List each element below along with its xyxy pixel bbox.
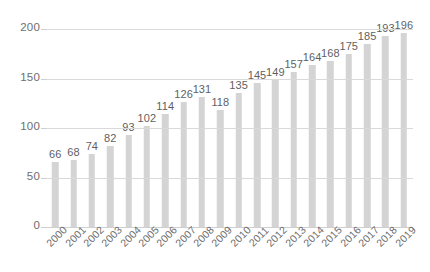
bar[interactable] — [382, 36, 389, 227]
bar[interactable] — [199, 97, 206, 227]
bar-group[interactable]: 66 — [46, 10, 64, 228]
bar-chart: 050100150200 666874829310211412613111813… — [0, 0, 430, 272]
bar[interactable] — [89, 154, 96, 227]
bar-group[interactable]: 193 — [376, 10, 394, 228]
bar-group[interactable]: 68 — [64, 10, 82, 228]
gridline — [46, 79, 413, 80]
bar-value-label: 131 — [193, 83, 212, 95]
bar-value-label: 193 — [376, 22, 395, 34]
bar-group[interactable]: 175 — [340, 10, 358, 228]
bar[interactable] — [346, 54, 353, 227]
bar-group[interactable]: 149 — [266, 10, 284, 228]
bar-group[interactable]: 196 — [395, 10, 413, 228]
bar-group[interactable]: 118 — [211, 10, 229, 228]
bar-group[interactable]: 114 — [156, 10, 174, 228]
y-axis-tick-label: 200 — [0, 21, 40, 33]
bar[interactable] — [180, 102, 187, 227]
x-axis: 2000200120022003200420052006200720082009… — [46, 230, 413, 272]
bar-value-label: 157 — [284, 58, 303, 70]
bar[interactable] — [107, 146, 114, 227]
bar[interactable] — [327, 61, 334, 227]
gridline — [46, 178, 413, 179]
bar-group[interactable]: 126 — [174, 10, 192, 228]
bar-value-label: 102 — [138, 112, 157, 124]
bar-group[interactable]: 135 — [230, 10, 248, 228]
bar[interactable] — [364, 44, 371, 227]
bar-value-label: 185 — [358, 30, 377, 42]
y-axis-tick-label: 100 — [0, 120, 40, 132]
bars-layer: 6668748293102114126131118135145149157164… — [46, 10, 413, 228]
bar-group[interactable]: 131 — [193, 10, 211, 228]
bar-group[interactable]: 185 — [358, 10, 376, 228]
bar-group[interactable]: 82 — [101, 10, 119, 228]
gridline — [46, 128, 413, 129]
bar[interactable] — [235, 93, 242, 227]
bar-group[interactable]: 168 — [321, 10, 339, 228]
bar[interactable] — [52, 162, 59, 227]
bar-group[interactable]: 102 — [138, 10, 156, 228]
bar-value-label: 118 — [211, 96, 229, 108]
bar[interactable] — [162, 114, 169, 227]
bar-value-label: 74 — [86, 140, 98, 152]
bar[interactable] — [254, 83, 261, 227]
bar[interactable] — [401, 33, 408, 227]
bar-value-label: 168 — [321, 47, 340, 59]
bar-value-label: 66 — [49, 148, 61, 160]
bar[interactable] — [290, 72, 297, 227]
bar-group[interactable]: 93 — [119, 10, 137, 228]
bar[interactable] — [70, 160, 77, 227]
y-axis-tick-label: 150 — [0, 71, 40, 83]
bar-value-label: 149 — [266, 66, 285, 78]
bar-group[interactable]: 157 — [285, 10, 303, 228]
gridline — [46, 29, 413, 30]
bar[interactable] — [272, 80, 279, 228]
bar-group[interactable]: 74 — [83, 10, 101, 228]
bar-value-label: 164 — [303, 51, 322, 63]
bar-value-label: 114 — [156, 100, 174, 112]
bar-group[interactable]: 145 — [248, 10, 266, 228]
bar[interactable] — [125, 135, 132, 227]
bar-group[interactable]: 164 — [303, 10, 321, 228]
y-axis-tick-label: 0 — [0, 219, 40, 231]
bar-value-label: 135 — [229, 79, 248, 91]
bar[interactable] — [309, 65, 316, 227]
plot-area: 6668748293102114126131118135145149157164… — [46, 10, 413, 228]
bar-value-label: 68 — [67, 146, 79, 158]
bar-value-label: 126 — [174, 88, 193, 100]
y-axis-tick-label: 50 — [0, 170, 40, 182]
bar-value-label: 82 — [104, 132, 116, 144]
bar-value-label: 145 — [248, 69, 267, 81]
bar-value-label: 93 — [122, 121, 134, 133]
bar-value-label: 175 — [339, 40, 358, 52]
